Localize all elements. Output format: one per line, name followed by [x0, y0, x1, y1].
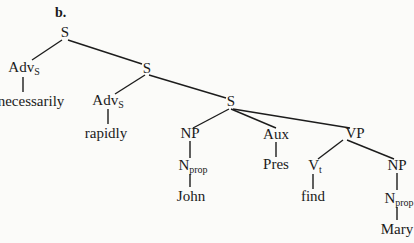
- edge-vp-vt: [318, 140, 343, 159]
- node-necessarily: necessarily: [0, 94, 64, 109]
- node-john: John: [177, 189, 205, 204]
- node-find: find: [301, 189, 325, 204]
- edge-sinner-vp: [233, 109, 350, 128]
- node-vt: Vt: [308, 158, 322, 173]
- node-advs-2: AdvS: [92, 93, 123, 108]
- edge-smid-advs2: [115, 75, 145, 94]
- node-np-object: NP: [387, 158, 406, 173]
- edge-sroot-advs1: [32, 40, 62, 60]
- node-aux: Aux: [263, 127, 289, 142]
- node-nprop-subject: Nprop: [178, 158, 207, 173]
- edge-smid-sinner: [149, 75, 226, 98]
- node-mary: Mary: [381, 222, 414, 237]
- node-np-subject: NP: [180, 126, 199, 141]
- node-nprop-object: Nprop: [384, 191, 413, 206]
- node-s-mid: S: [143, 61, 151, 76]
- node-advs-1: AdvS: [8, 60, 39, 75]
- node-rapidly: rapidly: [85, 126, 128, 141]
- node-vp: VP: [345, 126, 364, 141]
- node-pres: Pres: [263, 157, 289, 172]
- edge-sroot-smid: [68, 40, 142, 64]
- node-s-root: S: [61, 25, 69, 40]
- node-s-inner: S: [227, 94, 235, 109]
- figure-label: b.: [55, 6, 66, 20]
